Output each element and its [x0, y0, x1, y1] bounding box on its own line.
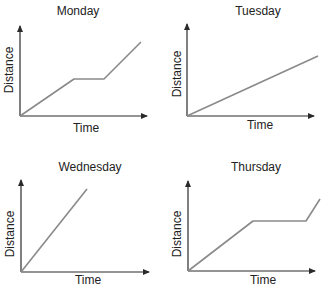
distance-time-line: [21, 189, 87, 272]
plot-area-wednesday: [21, 180, 149, 272]
y-axis-label: Distance: [170, 211, 184, 258]
x-axis-label: Time: [247, 118, 273, 132]
y-axis-label: Distance: [2, 47, 16, 94]
y-axis-label: Distance: [170, 51, 184, 98]
x-axis-label: Time: [73, 121, 99, 135]
plot-area-monday: [20, 26, 147, 116]
y-axis-label: Distance: [3, 211, 17, 258]
charts-canvas: [0, 0, 325, 286]
chart-title: Monday: [57, 4, 100, 18]
plot-area-tuesday: [187, 24, 318, 116]
distance-time-line: [20, 42, 141, 116]
chart-title: Thursday: [231, 160, 281, 174]
distance-time-line: [188, 199, 320, 271]
chart-title: Wednesday: [58, 160, 121, 174]
distance-time-line: [187, 56, 318, 116]
x-axis-label: Time: [75, 273, 101, 286]
plot-area-thursday: [188, 181, 320, 271]
chart-title: Tuesday: [235, 4, 281, 18]
x-axis-label: Time: [250, 273, 276, 286]
